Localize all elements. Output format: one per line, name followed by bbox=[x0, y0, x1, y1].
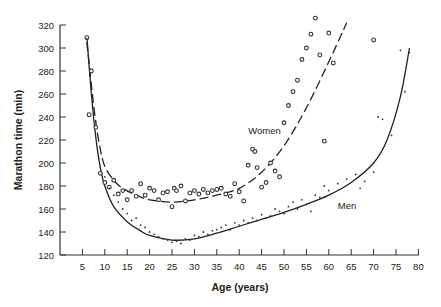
men-point bbox=[373, 171, 375, 173]
men-point bbox=[274, 208, 276, 210]
marathon-chart: 120140160180200220240260280300320 510152… bbox=[0, 0, 441, 307]
men-point bbox=[194, 235, 196, 237]
women-point bbox=[296, 78, 300, 82]
men-point bbox=[270, 215, 272, 217]
women-point bbox=[175, 189, 179, 193]
men-point bbox=[144, 227, 146, 229]
women-point bbox=[224, 192, 228, 196]
men-point bbox=[176, 240, 178, 242]
men-point bbox=[185, 238, 187, 240]
women-point bbox=[372, 38, 376, 42]
women-point bbox=[166, 190, 170, 194]
women-point bbox=[331, 61, 335, 65]
men-point bbox=[377, 116, 379, 118]
y-tick-label: 200 bbox=[38, 158, 54, 169]
women-point bbox=[89, 69, 93, 73]
women-point bbox=[134, 194, 138, 198]
men-point bbox=[247, 222, 249, 224]
women-point bbox=[278, 175, 282, 179]
women-point bbox=[193, 189, 197, 193]
men-point bbox=[292, 201, 294, 203]
y-tick-label: 120 bbox=[38, 250, 54, 261]
women-point bbox=[219, 186, 223, 190]
y-tick-label: 280 bbox=[38, 66, 54, 77]
women-point bbox=[309, 32, 313, 36]
men-point bbox=[86, 38, 88, 40]
women-point bbox=[201, 188, 205, 192]
men-point bbox=[140, 224, 142, 226]
annotation-men: Men bbox=[338, 200, 356, 211]
men-point bbox=[149, 231, 151, 233]
women-point bbox=[242, 199, 246, 203]
women-point bbox=[215, 188, 219, 192]
women-point bbox=[152, 189, 156, 193]
men-point bbox=[117, 201, 119, 203]
men-point bbox=[328, 190, 330, 192]
annotations: WomenMen bbox=[248, 125, 356, 211]
men-point bbox=[364, 181, 366, 183]
women-point bbox=[125, 198, 129, 202]
women-point bbox=[273, 169, 277, 173]
men-point bbox=[162, 238, 164, 240]
x-tick-label: 40 bbox=[234, 261, 245, 272]
y-tick-label: 180 bbox=[38, 181, 54, 192]
women-point bbox=[98, 171, 102, 175]
men-point bbox=[323, 185, 325, 187]
men-point bbox=[283, 213, 285, 215]
men-point bbox=[314, 194, 316, 196]
men-fit-curve bbox=[87, 37, 410, 241]
men-point bbox=[256, 220, 258, 222]
women-point bbox=[233, 182, 237, 186]
y-tick-label: 220 bbox=[38, 135, 54, 146]
women-point bbox=[148, 186, 152, 190]
men-point bbox=[279, 210, 281, 212]
y-tick-label: 320 bbox=[38, 20, 54, 31]
x-tick-label: 75 bbox=[391, 261, 402, 272]
men-point bbox=[113, 194, 115, 196]
x-tick-label: 5 bbox=[80, 261, 85, 272]
x-tick-label: 35 bbox=[212, 261, 223, 272]
men-point bbox=[310, 210, 312, 212]
men-point bbox=[400, 49, 402, 51]
x-tick-label: 50 bbox=[279, 261, 290, 272]
men-point bbox=[355, 174, 357, 176]
x-ticks: 5101520253035404550556065707580 bbox=[80, 249, 424, 272]
men-point bbox=[301, 199, 303, 201]
women-point bbox=[87, 113, 91, 117]
women-point bbox=[103, 181, 107, 185]
men-point bbox=[216, 229, 218, 231]
men-point bbox=[108, 187, 110, 189]
x-tick-label: 10 bbox=[100, 261, 111, 272]
men-point bbox=[189, 239, 191, 241]
women-point bbox=[287, 104, 291, 108]
men-point bbox=[234, 222, 236, 224]
men-point bbox=[346, 178, 348, 180]
women-point bbox=[206, 191, 210, 195]
men-point bbox=[306, 204, 308, 206]
men-point bbox=[265, 217, 267, 219]
men-point bbox=[220, 227, 222, 229]
men-point bbox=[382, 118, 384, 120]
men-point bbox=[135, 217, 137, 219]
men-point bbox=[95, 121, 97, 123]
men-point bbox=[229, 229, 231, 231]
men-point bbox=[288, 206, 290, 208]
x-axis-title: Age (years) bbox=[211, 281, 268, 293]
men-point bbox=[391, 135, 393, 137]
y-tick-label: 260 bbox=[38, 89, 54, 100]
men-point bbox=[122, 208, 124, 210]
women-point bbox=[139, 182, 143, 186]
women-point bbox=[121, 189, 125, 193]
men-point bbox=[131, 220, 133, 222]
women-point bbox=[237, 190, 241, 194]
women-point bbox=[197, 192, 201, 196]
women-point bbox=[130, 189, 134, 193]
women-point bbox=[300, 58, 304, 62]
women-point bbox=[313, 16, 317, 20]
x-tick-label: 80 bbox=[413, 261, 424, 272]
women-point bbox=[184, 199, 188, 203]
women-point bbox=[188, 191, 192, 195]
y-tick-label: 300 bbox=[38, 43, 54, 54]
y-tick-label: 140 bbox=[38, 227, 54, 238]
x-tick-label: 60 bbox=[324, 261, 335, 272]
